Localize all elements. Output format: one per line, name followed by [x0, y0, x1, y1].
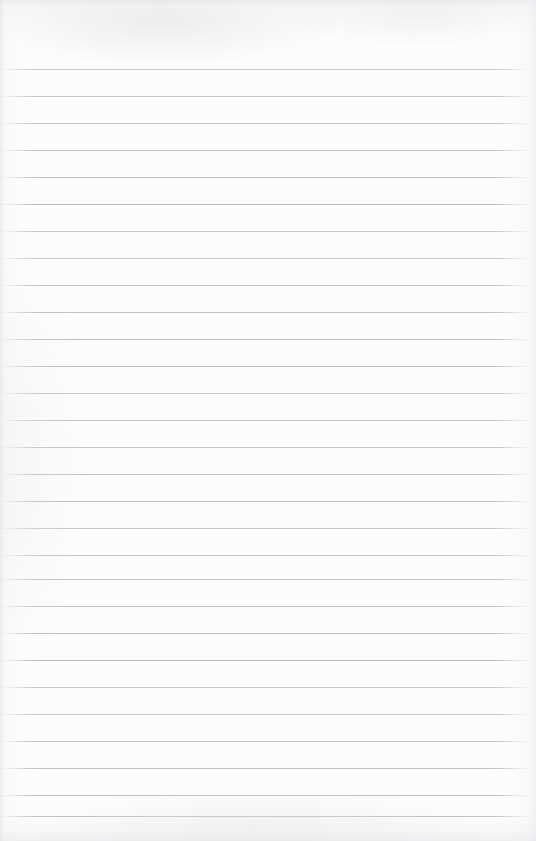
scanned-notebook-page	[0, 0, 536, 841]
paper-surface	[0, 0, 536, 841]
